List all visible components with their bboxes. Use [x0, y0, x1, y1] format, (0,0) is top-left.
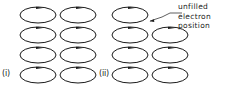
- orbit-ii-r3c0: [110, 64, 150, 84]
- orbit-ii-r0c0: [110, 4, 150, 24]
- orbit-i-r1c1: [58, 24, 98, 44]
- orbit-ii-r2c1: [150, 44, 190, 64]
- orbit-i-r3c1: [58, 64, 98, 84]
- orbit-i-r2c1: [58, 44, 98, 64]
- annotation-line-3: position: [178, 21, 235, 31]
- orbit-i-r0c0: [18, 4, 58, 24]
- orbit-i-r1c0: [18, 24, 58, 44]
- panel-label-ii: (ii): [99, 69, 109, 78]
- orbit-ii-r3c1: [150, 64, 190, 84]
- annotation-line-2: electron: [178, 12, 235, 22]
- electron-orbit-figure: (i) (ii) unfilled electron position: [0, 0, 235, 89]
- orbit-ii-r2c0: [110, 44, 150, 64]
- annotation-line-1: unfilled: [178, 2, 235, 12]
- orbit-i-r3c0: [18, 64, 58, 84]
- orbit-ii-r1c0: [110, 24, 150, 44]
- orbit-i-r2c0: [18, 44, 58, 64]
- panel-i: [0, 0, 100, 89]
- orbit-i-r0c1: [58, 4, 98, 24]
- orbit-grid-i: [0, 0, 100, 89]
- panel-label-i: (i): [2, 69, 10, 78]
- annotation-unfilled-electron-position: unfilled electron position: [178, 2, 235, 31]
